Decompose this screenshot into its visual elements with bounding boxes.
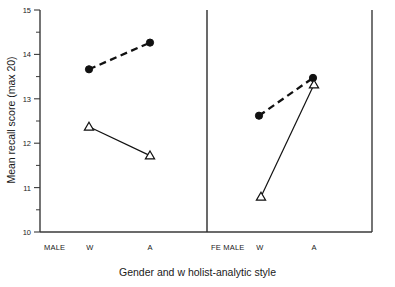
x-tick-label-female-a: A xyxy=(311,243,316,252)
series-male-filled-circle-line xyxy=(89,43,150,70)
x-axis-title: Gender and w holist-analytic style xyxy=(119,266,276,278)
data-point-female-a-circle xyxy=(309,74,316,81)
x-axis-title-wrap: Gender and w holist-analytic style xyxy=(0,262,395,280)
series-male-filled-circle xyxy=(85,39,153,73)
x-tick-label-male-w: W xyxy=(86,243,94,252)
y-tick-label-13: 13 xyxy=(23,95,31,104)
data-point-female-w-triangle xyxy=(256,192,265,200)
series-female-open-triangle-line xyxy=(261,85,314,197)
y-axis-title: Mean recall score (max 20) xyxy=(5,56,17,183)
series-female-open-triangle xyxy=(256,80,318,200)
x-tick-label-female-w: W xyxy=(256,243,264,252)
x-tick-label-male-group: MALE xyxy=(44,243,65,252)
y-tick-label-14: 14 xyxy=(23,50,31,59)
y-axis-title-wrap: Mean recall score (max 20) xyxy=(0,0,22,240)
recall-score-line-chart: 10 11 12 13 14 15 MALE W A FE MALE W A xyxy=(0,0,395,287)
y-tick-label-15: 15 xyxy=(23,6,31,15)
series-male-open-triangle xyxy=(84,122,154,159)
series-female-filled-circle xyxy=(255,74,316,119)
data-point-male-w-circle xyxy=(85,66,92,73)
data-point-male-a-circle xyxy=(146,39,153,46)
series-female-filled-circle-line xyxy=(259,78,313,116)
series-male-open-triangle-line xyxy=(89,127,150,156)
data-point-male-w-triangle xyxy=(84,122,93,130)
y-tick-label-10: 10 xyxy=(23,228,31,237)
data-point-male-a-triangle xyxy=(145,151,154,159)
x-tick-label-male-a: A xyxy=(147,243,152,252)
plot-area: 10 11 12 13 14 15 MALE W A FE MALE W A xyxy=(0,0,395,287)
data-point-female-w-circle xyxy=(255,112,262,119)
y-tick-label-12: 12 xyxy=(23,139,31,148)
x-tick-label-female-group: FE MALE xyxy=(211,243,245,252)
y-tick-label-11: 11 xyxy=(23,184,31,193)
